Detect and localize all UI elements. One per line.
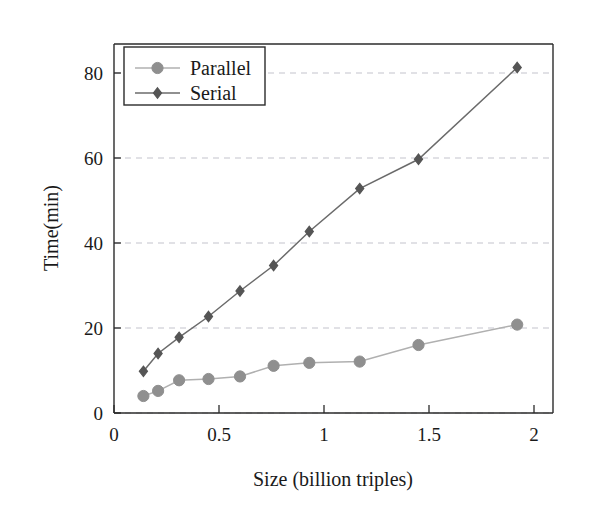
- x-axis-label: Size (billion triples): [253, 468, 413, 491]
- y-axis-ticks: [114, 73, 121, 413]
- x-tick-label-1: 1: [319, 424, 329, 445]
- y-axis-label: Time(min): [40, 185, 63, 271]
- datapoint-parallel-0: [138, 390, 149, 401]
- legend-label-serial: Serial: [190, 82, 237, 104]
- datapoint-parallel-4: [234, 371, 245, 382]
- legend: ParallelSerial: [124, 47, 265, 105]
- line-chart-svg: 020406080 00.511.52 Time(min) Size (bill…: [0, 0, 596, 518]
- series-parallel: [138, 319, 523, 402]
- x-axis-tick-labels: 00.511.52: [109, 424, 539, 445]
- datapoint-parallel-2: [174, 375, 185, 386]
- x-tick-label-0: 0: [109, 424, 119, 445]
- x-tick-label-2: 2: [529, 424, 539, 445]
- series-line-parallel: [143, 325, 517, 396]
- datapoint-parallel-7: [354, 356, 365, 367]
- y-tick-label-60: 60: [84, 148, 103, 169]
- datapoint-parallel-5: [268, 360, 279, 371]
- datapoint-parallel-3: [203, 373, 214, 384]
- chart-figure: 020406080 00.511.52 Time(min) Size (bill…: [0, 0, 596, 518]
- series-line-serial: [143, 67, 517, 371]
- x-axis-ticks: [114, 405, 534, 413]
- data-series-layer: [138, 62, 523, 401]
- y-tick-label-40: 40: [84, 233, 103, 254]
- legend-label-parallel: Parallel: [190, 57, 252, 79]
- x-tick-label-1.5: 1.5: [417, 424, 441, 445]
- datapoint-parallel-6: [304, 357, 315, 368]
- datapoint-serial-2: [175, 332, 183, 342]
- x-tick-label-0.5: 0.5: [207, 424, 231, 445]
- y-axis-tick-labels: 020406080: [84, 63, 103, 424]
- datapoint-serial-7: [356, 183, 364, 193]
- datapoint-parallel-1: [153, 385, 164, 396]
- series-serial: [139, 62, 521, 376]
- y-tick-label-20: 20: [84, 318, 103, 339]
- y-tick-label-80: 80: [84, 63, 103, 84]
- datapoint-serial-4: [236, 286, 244, 296]
- legend-marker-parallel: [152, 62, 163, 73]
- datapoint-serial-3: [204, 311, 212, 321]
- datapoint-parallel-8: [413, 339, 424, 350]
- y-tick-label-0: 0: [94, 403, 104, 424]
- datapoint-parallel-9: [512, 319, 523, 330]
